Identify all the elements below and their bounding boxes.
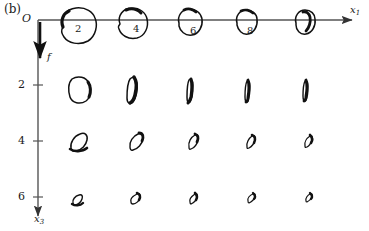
x-tick-label-4: 4 — [133, 24, 139, 34]
force-label: f — [47, 52, 51, 62]
blob-row0 — [62, 8, 316, 44]
x1-axis-label: x1 — [350, 5, 360, 15]
y-tick-label-2: 2 — [18, 79, 25, 90]
blob-row6 — [72, 193, 312, 205]
x3-axis-label: x3 — [34, 214, 44, 224]
x-tick-label-2: 2 — [75, 24, 81, 34]
plot-canvas — [0, 0, 369, 231]
blob-row2 — [69, 77, 308, 103]
panel-label: (b) — [4, 3, 21, 15]
origin-label: O — [22, 13, 31, 24]
x-tick-label-6: 6 — [190, 26, 196, 36]
y-tick-label-4: 4 — [18, 135, 25, 146]
figure-panel: (b) O f x1 x3 2 4 6 2 4 6 8 — [0, 0, 369, 231]
y-tick-label-6: 6 — [18, 191, 25, 202]
x-tick-label-8: 8 — [247, 26, 253, 36]
blob-row4 — [70, 133, 312, 151]
